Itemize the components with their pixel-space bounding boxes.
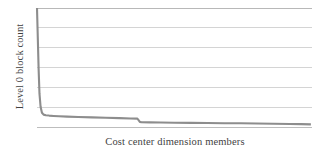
x-axis-label: Cost center dimension members	[38, 136, 312, 147]
y-axis-label: Level 0 block count	[0, 0, 40, 132]
line-chart-svg	[37, 8, 312, 127]
gridlines-group	[37, 8, 312, 127]
chart-figure: Level 0 block count Cost center dimensio…	[0, 0, 317, 162]
plot-area	[37, 8, 312, 127]
y-axis-label-text: Level 0 block count	[15, 23, 26, 109]
